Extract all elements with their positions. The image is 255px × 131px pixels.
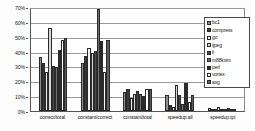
y-axis-tick-label: 50% bbox=[15, 35, 25, 41]
legend-item: vortex bbox=[207, 71, 248, 78]
legend-swatch-icon bbox=[207, 73, 211, 77]
legend-item: perl bbox=[207, 64, 248, 71]
bar bbox=[233, 109, 236, 111]
y-axis-tick-label: 20% bbox=[15, 79, 25, 85]
y-axis-tick-label: 60% bbox=[15, 20, 25, 26]
legend-swatch-icon bbox=[207, 36, 211, 40]
y-axis: 0%10%20%30%40%50%60%70% bbox=[0, 8, 28, 112]
legend-label: compress bbox=[212, 28, 232, 33]
legend-label: m88ksim bbox=[212, 58, 231, 63]
bar bbox=[191, 95, 194, 111]
legend-item: bc1 bbox=[207, 19, 248, 26]
legend-swatch-icon bbox=[207, 21, 211, 25]
bar bbox=[149, 89, 152, 111]
x-axis-labels: correct/totalconstant/correctconstant/to… bbox=[31, 114, 244, 120]
legend-label: bc1 bbox=[212, 20, 220, 25]
legend-label: li bbox=[212, 50, 214, 55]
y-axis-tick-mark bbox=[26, 53, 28, 54]
y-axis-tick-label: 0% bbox=[18, 109, 25, 115]
legend-label: perl bbox=[212, 65, 220, 70]
legend-swatch-icon bbox=[207, 51, 211, 55]
bar bbox=[64, 38, 67, 111]
bar-group bbox=[32, 9, 74, 111]
legend-label: avg bbox=[212, 80, 220, 85]
legend-label: vortex bbox=[212, 72, 225, 77]
legend-swatch-icon bbox=[207, 43, 211, 47]
y-axis-tick-label: 70% bbox=[15, 5, 25, 11]
y-axis-tick-mark bbox=[26, 23, 28, 24]
y-axis-tick-mark bbox=[26, 82, 28, 83]
legend-item: li bbox=[207, 49, 248, 56]
y-axis-tick-label: 40% bbox=[15, 50, 25, 56]
x-axis-tick-label: speedup:all bbox=[159, 114, 202, 120]
legend-swatch-icon bbox=[207, 28, 211, 32]
legend-item: go bbox=[207, 34, 248, 41]
legend-swatch-icon bbox=[207, 66, 211, 70]
x-axis-tick-label: correct/total bbox=[31, 114, 74, 120]
legend-item: m88ksim bbox=[207, 56, 248, 63]
bar-group bbox=[116, 9, 158, 111]
legend-item: ijpeg bbox=[207, 41, 248, 48]
y-axis-tick-mark bbox=[26, 97, 28, 98]
y-axis-tick-mark bbox=[26, 38, 28, 39]
y-axis-tick-label: 10% bbox=[15, 94, 25, 100]
y-axis-tick-mark bbox=[26, 67, 28, 68]
legend-item: avg bbox=[207, 79, 248, 86]
x-axis-tick-label: speedup:tpi bbox=[201, 114, 244, 120]
x-axis-tick-label: constant/correct bbox=[74, 114, 117, 120]
legend-swatch-icon bbox=[207, 58, 211, 62]
y-axis-tick-label: 30% bbox=[15, 64, 25, 70]
x-axis-tick-label: constant/total bbox=[116, 114, 159, 120]
bar-group bbox=[74, 9, 116, 111]
y-axis-tick-mark bbox=[26, 112, 28, 113]
legend-swatch-icon bbox=[207, 80, 211, 84]
y-axis-tick-mark bbox=[26, 8, 28, 9]
bar-group bbox=[159, 9, 201, 111]
legend-label: ijpeg bbox=[212, 43, 222, 48]
bar-chart: 0%10%20%30%40%50%60%70% correct/totalcon… bbox=[0, 0, 255, 131]
legend: bc1compressgoijpeglim88ksimperlvortexavg bbox=[204, 17, 250, 88]
legend-item: compress bbox=[207, 26, 248, 33]
bar bbox=[106, 40, 109, 111]
legend-label: go bbox=[212, 35, 217, 40]
